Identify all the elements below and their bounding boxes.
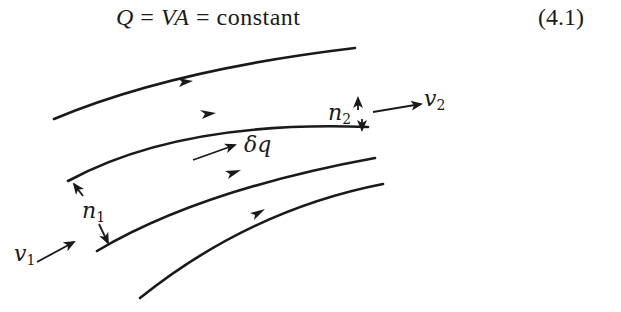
label-n2: n2: [328, 100, 351, 127]
label-dq: δq: [244, 132, 271, 157]
dq-arrow: [193, 145, 235, 160]
flow-arrow-4: [250, 209, 265, 220]
flow-arrow-2: [200, 110, 216, 119]
streamline-2: [68, 126, 368, 181]
label-n1: n1: [82, 198, 105, 225]
flow-arrow-1: [178, 78, 193, 87]
v2-arrow: [373, 104, 421, 112]
n1-arrow-down: [99, 224, 108, 243]
v1-arrow: [37, 242, 74, 262]
label-v2: v2: [424, 86, 445, 113]
n1-arrow-up: [74, 184, 83, 196]
label-v1: v1: [14, 241, 35, 268]
streamline-4: [140, 184, 383, 298]
streamline-1: [54, 48, 355, 119]
streamline-diagram: [0, 0, 621, 312]
flow-arrow-3: [225, 170, 241, 179]
